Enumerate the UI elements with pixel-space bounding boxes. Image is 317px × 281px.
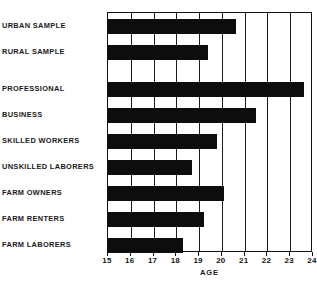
plot-area [107, 12, 312, 252]
category-label: SKILLED WORKERS [2, 136, 98, 145]
x-axis-title: AGE [107, 268, 312, 277]
gridline [290, 13, 291, 251]
category-label: FARM OWNERS [2, 188, 98, 197]
bar [108, 238, 183, 253]
gridline [222, 13, 223, 251]
x-tick-label: 23 [280, 256, 298, 265]
x-tick-label: 15 [98, 256, 116, 265]
bar [108, 82, 304, 97]
bar [108, 45, 208, 60]
bar [108, 19, 236, 34]
category-label-column: URBAN SAMPLERURAL SAMPLEPROFESSIONALBUSI… [0, 12, 103, 252]
x-tick-label: 22 [257, 256, 275, 265]
x-tick-label: 20 [212, 256, 230, 265]
x-tick-label: 21 [235, 256, 253, 265]
bar [108, 108, 256, 123]
bar [108, 212, 204, 227]
category-label: RURAL SAMPLE [2, 47, 98, 56]
bar-chart: URBAN SAMPLERURAL SAMPLEPROFESSIONALBUSI… [0, 0, 317, 281]
x-tick-label: 24 [303, 256, 317, 265]
gridline [267, 13, 268, 251]
category-label: URBAN SAMPLE [2, 21, 98, 30]
category-label: FARM LABORERS [2, 240, 98, 249]
x-tick-label: 16 [121, 256, 139, 265]
x-tick-label: 17 [144, 256, 162, 265]
category-label: PROFESSIONAL [2, 84, 98, 93]
bar [108, 134, 217, 149]
gridline [245, 13, 246, 251]
category-label: BUSINESS [2, 110, 98, 119]
x-tick-label: 19 [189, 256, 207, 265]
category-label: UNSKILLED LABORERS [2, 162, 98, 171]
x-tick-label: 18 [166, 256, 184, 265]
bar [108, 160, 192, 175]
bar [108, 186, 224, 201]
category-label: FARM RENTERS [2, 214, 98, 223]
